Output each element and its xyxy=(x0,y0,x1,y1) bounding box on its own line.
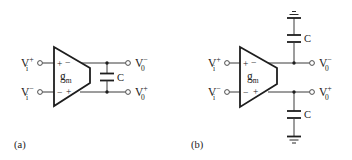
output-label-minus-sub: 0 xyxy=(325,64,329,73)
capacitor-bottom-to-ground xyxy=(287,90,301,143)
input-terminal-minus xyxy=(225,90,230,95)
input-terminal-plus xyxy=(225,61,230,66)
output-terminal-minus xyxy=(310,61,315,66)
output-terminal-plus xyxy=(310,90,315,95)
output-label-minus-sub: 0 xyxy=(141,64,145,73)
capacitor-label: C xyxy=(117,72,124,83)
output-terminal-minus xyxy=(126,61,131,66)
panel-label-b: (b) xyxy=(191,139,204,151)
input-label-minus-sub: i xyxy=(213,93,215,102)
amp-top-minus: − xyxy=(251,58,256,68)
amp-top-minus: − xyxy=(65,58,70,68)
ground-icon xyxy=(287,137,301,144)
output-terminal-plus xyxy=(126,90,131,95)
panel-b: + − gm − + V+ i V− i V− 0 V+ 0 C C (b) xyxy=(191,12,332,152)
capacitor-label-top: C xyxy=(304,33,311,44)
capacitor-label-bottom: C xyxy=(304,109,311,120)
output-label-plus-sub: 0 xyxy=(141,93,145,102)
amp-bottom-minus: − xyxy=(243,88,248,98)
amp-top-plus: + xyxy=(57,59,62,69)
input-terminal-plus xyxy=(38,61,43,66)
output-label-plus-sub: 0 xyxy=(325,93,329,102)
panel-a: + − gm − + V+ i V− i V− 0 V+ 0 C (a) xyxy=(14,47,148,151)
panel-label-a: (a) xyxy=(14,139,26,151)
junction-node xyxy=(105,61,108,64)
amp-bottom-plus: + xyxy=(253,87,258,97)
capacitor-differential xyxy=(100,61,114,93)
junction-node xyxy=(292,61,295,64)
junction-node xyxy=(292,90,295,93)
junction-node xyxy=(105,90,108,93)
ground-icon xyxy=(287,12,301,19)
input-terminal-minus xyxy=(38,90,43,95)
amp-bottom-plus: + xyxy=(66,87,71,97)
input-label-plus-sub: i xyxy=(213,64,215,73)
input-label-minus-sub: i xyxy=(26,93,28,102)
amp-bottom-minus: − xyxy=(57,88,62,98)
capacitor-top-to-ground xyxy=(287,12,301,65)
input-label-plus-sub: i xyxy=(26,64,28,73)
ota-capacitor-figure: + − gm − + V+ i V− i V− 0 V+ 0 C (a) xyxy=(0,0,352,160)
amp-top-plus: + xyxy=(243,59,248,69)
